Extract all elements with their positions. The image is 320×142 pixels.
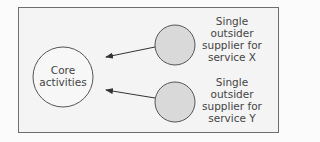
arrow-supplier-y-to-core bbox=[106, 90, 155, 98]
arrow-supplier-x-to-core bbox=[106, 47, 155, 57]
supplier-y-circle bbox=[155, 82, 195, 122]
supplier-x-circle bbox=[155, 25, 195, 65]
supplier-y-label: Single outsider supplier for service Y bbox=[196, 76, 268, 124]
supplier-x-label: Single outsider supplier for service X bbox=[196, 15, 268, 63]
core-activities-label: Core activities bbox=[33, 64, 93, 88]
